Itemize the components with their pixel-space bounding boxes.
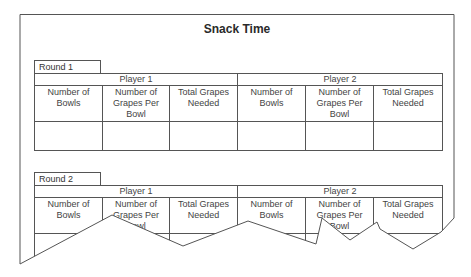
round-2-label: Round 2 (34, 172, 101, 185)
answer-cell[interactable] (374, 234, 443, 263)
answer-cell[interactable] (170, 234, 238, 263)
answer-cell[interactable] (238, 234, 306, 263)
round-2-player-1-header: Player 1 (35, 186, 238, 198)
answer-cell[interactable] (170, 122, 238, 151)
column-header-total-grapes: Total Grapes Needed (374, 198, 443, 234)
round-1-player-2-header: Player 2 (238, 74, 443, 86)
answer-cell[interactable] (35, 234, 103, 263)
round-2-player-2-header: Player 2 (238, 186, 443, 198)
answer-cell[interactable] (35, 122, 103, 151)
column-header-total-grapes: Total Grapes Needed (170, 86, 238, 122)
column-header-bowls: Number of Bowls (35, 198, 103, 234)
column-header-bowls: Number of Bowls (35, 86, 103, 122)
column-header-grapes-per-bowl: Number of Grapes Per Bowl (306, 198, 374, 234)
round-1-label: Round 1 (34, 60, 101, 73)
round-1-table: Player 1 Player 2 Number of Bowls Number… (34, 73, 443, 151)
page-title: Snack Time (20, 22, 454, 36)
round-1-player-1-header: Player 1 (35, 74, 238, 86)
answer-cell[interactable] (103, 234, 170, 263)
worksheet: Snack Time Round 1 Player 1 Player 2 Num… (0, 0, 471, 277)
answer-cell[interactable] (374, 122, 443, 151)
column-header-bowls: Number of Bowls (238, 86, 306, 122)
column-header-grapes-per-bowl: Number of Grapes Per Bowl (103, 86, 170, 122)
answer-cell[interactable] (306, 122, 374, 151)
table-row (35, 234, 443, 263)
answer-cell[interactable] (238, 122, 306, 151)
column-header-total-grapes: Total Grapes Needed (170, 198, 238, 234)
answer-cell[interactable] (306, 234, 374, 263)
column-header-bowls: Number of Bowls (238, 198, 306, 234)
column-header-grapes-per-bowl: Number of Grapes Per Bowl (103, 198, 170, 234)
torn-page: Snack Time Round 1 Player 1 Player 2 Num… (0, 0, 471, 277)
answer-cell[interactable] (103, 122, 170, 151)
table-row (35, 122, 443, 151)
column-header-total-grapes: Total Grapes Needed (374, 86, 443, 122)
round-2-table: Player 1 Player 2 Number of Bowls Number… (34, 185, 443, 263)
column-header-grapes-per-bowl: Number of Grapes Per Bowl (306, 86, 374, 122)
